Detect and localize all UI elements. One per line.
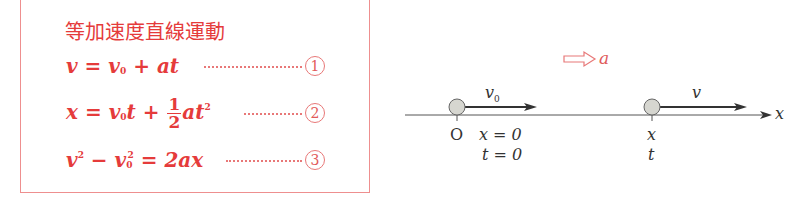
end-ball [644,99,747,121]
motion-diagram [0,0,788,200]
v0-sub: 0 [494,94,500,104]
start-x-label: x = 0 [479,125,522,144]
end-velocity-label: v [692,83,701,102]
acceleration-label: a [599,48,609,68]
start-t-label: t = 0 [482,145,522,164]
end-x-label: x [647,125,656,144]
v0-v: v [485,83,494,102]
axis-label: x [775,104,784,123]
origin-label: O [450,125,463,144]
acceleration-arrow-icon [564,52,595,66]
end-t-label: t [648,145,654,164]
start-velocity-label: v0 [485,83,500,104]
